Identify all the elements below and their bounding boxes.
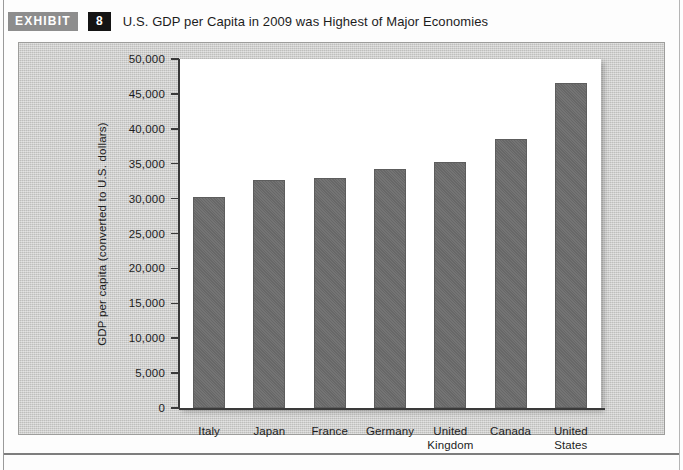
bar-united-states [555,83,587,408]
exhibit-page: EXHIBIT 8 U.S. GDP per Capita in 2009 wa… [0,0,683,470]
y-axis-tick [171,268,179,270]
x-axis-label-united-states: UnitedStates [532,425,610,452]
bar-japan [253,180,285,408]
x-axis-label-line: Japan [254,425,286,437]
exhibit-number-badge: 8 [88,12,111,31]
y-axis-tick [171,233,179,235]
chart-panel: 05,00010,00015,00020,00025,00030,00035,0… [18,42,665,435]
x-axis-label-line: United [554,425,588,437]
y-axis-title: GDP per capita (converted to U.S. dollar… [96,89,108,379]
bar-united-kingdom [434,162,466,408]
y-axis-tick [171,407,179,409]
y-axis-tick-label: 0 [29,402,179,414]
x-axis-label-line: France [312,425,348,437]
exhibit-title: U.S. GDP per Capita in 2009 was Highest … [123,14,488,29]
bar-germany [374,169,406,408]
x-axis-label-line: Canada [490,425,531,437]
y-axis-tick-label: 50,000 [29,53,179,65]
y-axis-tick [171,163,179,165]
y-axis-tick [171,303,179,305]
exhibit-header: EXHIBIT 8 U.S. GDP per Capita in 2009 wa… [8,10,488,32]
page-right-border [679,0,680,470]
bar-france [314,178,346,408]
y-axis-tick [171,198,179,200]
bar-italy [193,197,225,408]
x-axis-label-line: Italy [198,425,220,437]
x-axis-label-line: Germany [366,425,414,437]
exhibit-tag-label: EXHIBIT [8,12,78,31]
x-axis-line [179,408,605,410]
y-axis-tick [171,128,179,130]
y-axis-tick [171,93,179,95]
y-axis-tick [171,372,179,374]
x-axis-label-line: United [433,425,467,437]
x-axis-labels: ItalyJapanFranceGermanyUnitedKingdomCana… [179,415,605,455]
bar-canada [495,139,527,408]
x-axis-label-line: States [554,439,587,451]
y-axis-tick [171,337,179,339]
x-axis-label-line: Kingdom [427,439,473,451]
y-axis-tick [171,58,179,60]
page-left-border [3,0,4,470]
